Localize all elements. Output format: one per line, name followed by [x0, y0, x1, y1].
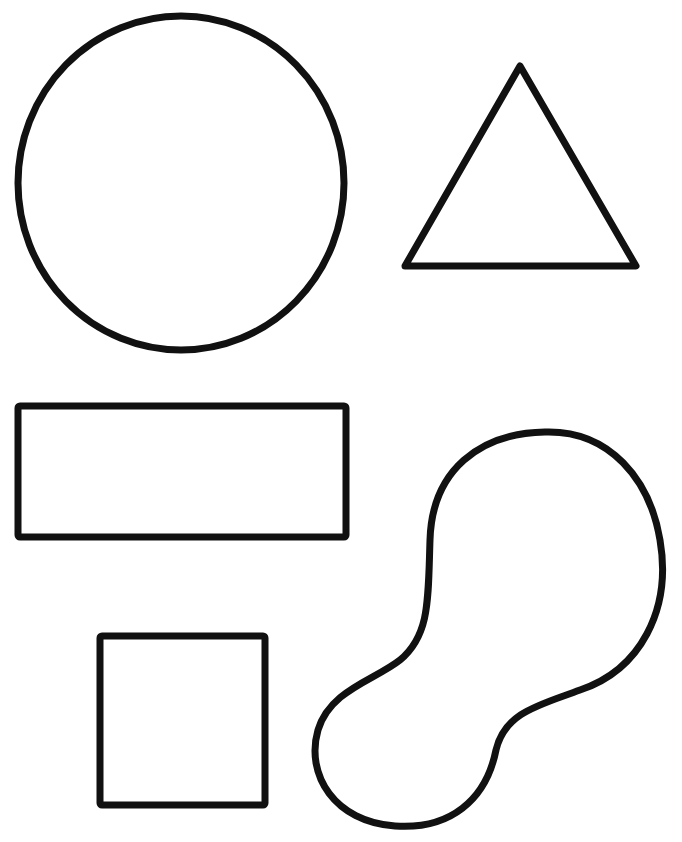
triangle-shape: [405, 66, 636, 266]
rectangle-shape: [18, 406, 346, 537]
shapes-canvas: [0, 0, 682, 842]
blob-shape: [315, 432, 662, 826]
circle-shape: [18, 16, 344, 350]
square-shape: [100, 636, 265, 805]
